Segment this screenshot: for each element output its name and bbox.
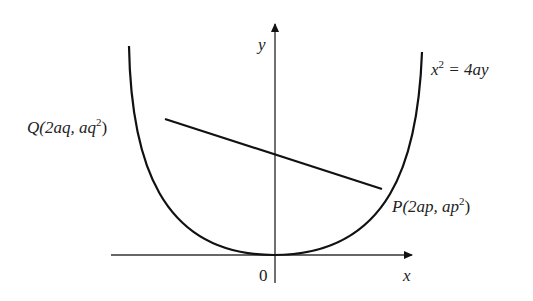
origin-label: 0	[259, 266, 268, 285]
point-Q-label: Q(2aq, aq2)	[27, 116, 107, 137]
curve-equation-label: x2 = 4ay	[430, 58, 489, 79]
y-axis-label: y	[256, 35, 266, 54]
parabola-diagram: y x 0 x2 = 4ay Q(2aq, aq2) P(2ap, ap2)	[0, 0, 533, 301]
chord-QP	[165, 119, 382, 189]
x-axis-label: x	[402, 266, 411, 285]
point-P-label: P(2ap, ap2)	[391, 195, 470, 216]
